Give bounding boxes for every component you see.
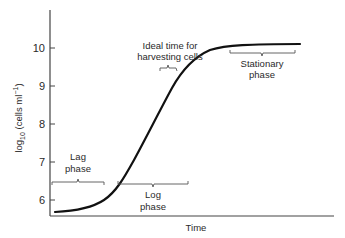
harvest-label-line1: Ideal time for (143, 40, 198, 51)
stationary-label-line1: Stationary (241, 58, 284, 69)
y-tick-label: 10 (33, 42, 45, 54)
lag-phase-brace (52, 179, 104, 185)
stationary-label-line2: phase (249, 69, 275, 80)
x-axis-title: Time (186, 222, 207, 233)
lag-phase-label-line2: phase (65, 163, 91, 174)
lag-phase-label-line1: Lag (70, 151, 86, 162)
growth-curve-chart: 10 9 8 7 6 log10 (cells ml−1) Time Lag p… (0, 0, 345, 238)
log-phase-label-line1: Log (145, 189, 161, 200)
y-tick-label: 9 (39, 80, 45, 92)
y-axis-title: log10 (cells ml−1) (12, 83, 26, 152)
y-tick-label: 6 (39, 194, 45, 206)
harvesting-brace (160, 65, 177, 71)
y-tick-label: 7 (39, 156, 45, 168)
y-ticks: 10 9 8 7 6 (33, 42, 55, 206)
harvest-label-line2: harvesting cells (137, 51, 203, 62)
log-phase-brace (118, 181, 188, 187)
log-phase-label-line2: phase (140, 201, 166, 212)
stationary-phase-brace (230, 50, 295, 56)
y-tick-label: 8 (39, 118, 45, 130)
